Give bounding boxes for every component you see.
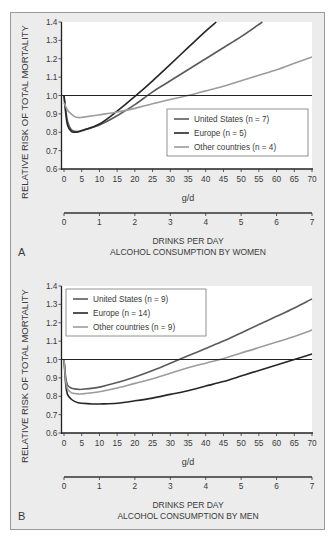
y-tick-label: 0.9 [46,373,58,383]
x-tick-label: 40 [201,438,211,448]
y-tick-label: 1.1 [46,336,58,346]
y-axis-label: RELATIVE RISK OF TOTAL MORTALITY [19,288,30,463]
y-tick-label: 1.4 [46,281,58,291]
x-tick-label: 50 [237,174,247,184]
y-tick-label: 1.0 [46,91,58,101]
y-tick-label: 0.8 [46,127,58,137]
legend-label: United States (n = 9) [93,295,169,304]
y-axis: 1.41.31.21.11.00.90.80.70.6 [46,281,62,438]
secondary-tick-label: 4 [203,481,208,491]
y-tick-label: 1.4 [46,17,58,27]
secondary-tick-label: 6 [274,217,279,227]
x-tick-label: 0 [62,438,67,448]
x-tick-label: 15 [113,438,123,448]
secondary-tick-label: 5 [239,217,244,227]
x-axis-drinks: 01234567 [62,213,315,227]
legend: United States (n = 7) Europe (n = 5) Oth… [167,109,308,156]
secondary-tick-label: 7 [310,217,315,227]
y-tick-label: 0.9 [46,109,58,119]
y-tick-label: 0.7 [46,410,58,420]
x-tick-label: 40 [201,174,211,184]
x-tick-label: 65 [290,438,300,448]
x-tick-label: 10 [95,438,105,448]
secondary-tick-label: 5 [239,481,244,491]
x-axis-label: g/d [182,193,195,203]
secondary-tick-label: 3 [168,217,173,227]
x-tick-label: 60 [272,438,282,448]
legend-label: United States (n = 7) [194,115,270,124]
x-tick-label: 20 [130,438,140,448]
y-tick-label: 1.2 [46,54,58,64]
y-axis-label: RELATIVE RISK OF TOTAL MORTALITY [19,24,30,199]
secondary-tick-label: 0 [62,217,67,227]
y-tick-label: 0.6 [46,428,58,438]
y-tick-label: 1.3 [46,299,58,309]
secondary-tick-label: 4 [203,217,208,227]
secondary-axis-label: DRINKS PER DAY [152,500,223,510]
x-tick-label: 60 [272,174,282,184]
x-tick-label: 25 [148,438,158,448]
y-tick-label: 1.0 [46,355,58,365]
x-tick-label: 35 [183,438,193,448]
x-tick-label: 10 [95,174,105,184]
y-tick-label: 0.7 [46,146,58,156]
x-tick-label: 45 [219,174,229,184]
x-tick-label: 50 [237,438,247,448]
legend-label: Other countries (n = 4) [194,143,276,152]
panel-label: A [18,246,26,258]
secondary-tick-label: 2 [133,217,138,227]
secondary-tick-label: 0 [62,481,67,491]
secondary-tick-label: 1 [97,217,102,227]
y-tick-label: 1.1 [46,72,58,82]
x-tick-label: 5 [79,174,84,184]
panel-a-women: 1.41.31.21.11.00.90.80.70.6 051015202530… [18,17,317,258]
panel-label: B [18,510,25,522]
x-tick-label: 30 [166,174,176,184]
x-tick-label: 15 [113,174,123,184]
panel-title: ALCOHOL CONSUMPTION BY WOMEN [110,247,266,257]
x-axis-label: g/d [182,457,195,467]
legend-label: Other countries (n = 9) [93,323,175,332]
x-tick-label: 45 [219,438,229,448]
panel-b-men: 1.41.31.21.11.00.90.80.70.6 051015202530… [18,281,317,522]
secondary-tick-label: 1 [97,481,102,491]
secondary-axis-label: DRINKS PER DAY [152,236,223,246]
panel-title: ALCOHOL CONSUMPTION BY MEN [117,511,258,521]
x-tick-label: 30 [166,438,176,448]
y-tick-label: 1.3 [46,35,58,45]
y-tick-label: 0.8 [46,391,58,401]
x-tick-label: 20 [130,174,140,184]
y-tick-label: 1.2 [46,318,58,328]
x-axis-gd: 0510152025303540455055606570 [62,433,317,448]
x-tick-label: 70 [307,174,317,184]
x-tick-label: 0 [62,174,67,184]
secondary-tick-label: 3 [168,481,173,491]
x-tick-label: 65 [290,174,300,184]
y-axis: 1.41.31.21.11.00.90.80.70.6 [46,17,62,174]
x-axis-drinks: 01234567 [62,477,315,491]
x-tick-label: 35 [183,174,193,184]
legend: United States (n = 9) Europe (n = 14) Ot… [66,289,206,336]
x-tick-label: 55 [254,438,264,448]
legend-label: Europe (n = 14) [93,309,150,318]
x-tick-label: 70 [307,438,317,448]
secondary-tick-label: 2 [133,481,138,491]
secondary-tick-label: 6 [274,481,279,491]
x-tick-label: 25 [148,174,158,184]
y-tick-label: 0.6 [46,164,58,174]
secondary-tick-label: 7 [310,481,315,491]
chart-canvas: 1.41.31.21.11.00.90.80.70.6 051015202530… [0,0,335,536]
legend-label: Europe (n = 5) [194,129,247,138]
x-tick-label: 55 [254,174,264,184]
x-tick-label: 5 [79,438,84,448]
x-axis-gd: 0510152025303540455055606570 [62,169,317,184]
